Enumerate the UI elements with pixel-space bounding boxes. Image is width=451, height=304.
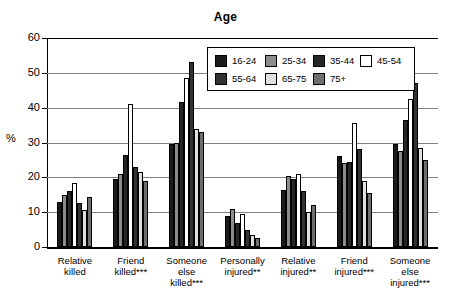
legend-item-16-24: 16-24 [215, 54, 256, 67]
legend-swatch-icon [215, 55, 227, 67]
bar [423, 160, 428, 247]
legend: 16-2425-3435-4445-5455-6465-7575+ [207, 47, 415, 91]
age-bar-chart: Age % 0102030405060 Relative killedFrien… [0, 0, 451, 304]
bar-group [113, 38, 148, 247]
x-axis-label: Someone else injured*** [376, 255, 444, 288]
legend-item-55-64: 55-64 [215, 72, 256, 85]
legend-swatch-icon [265, 73, 277, 85]
bar [311, 205, 316, 247]
y-tick-label: 30 [18, 136, 40, 148]
x-axis-line [47, 247, 438, 249]
legend-label: 16-24 [232, 55, 256, 66]
y-tick-label: 0 [18, 240, 40, 252]
y-axis-title: % [6, 132, 16, 144]
y-tick-label: 60 [18, 31, 40, 43]
legend-swatch-icon [265, 55, 277, 67]
bar [143, 181, 148, 247]
bar [255, 238, 260, 247]
bar [87, 197, 92, 248]
legend-item-75plus: 75+ [313, 72, 346, 85]
legend-item-45-54: 45-54 [360, 54, 401, 67]
legend-swatch-icon [215, 73, 227, 85]
y-tick-label: 20 [18, 170, 40, 182]
y-tick-mark [42, 247, 47, 248]
bar-group [169, 38, 204, 247]
legend-item-25-34: 25-34 [265, 54, 306, 67]
y-tick-label: 10 [18, 205, 40, 217]
legend-label: 25-34 [282, 55, 306, 66]
bar-group [57, 38, 92, 247]
legend-label: 55-64 [232, 73, 256, 84]
bar [199, 132, 204, 247]
legend-swatch-icon [360, 55, 372, 67]
y-tick-label: 50 [18, 66, 40, 78]
legend-label: 45-54 [377, 55, 401, 66]
legend-label: 65-75 [282, 73, 306, 84]
bar [367, 193, 372, 247]
legend-item-65-75: 65-75 [265, 72, 306, 85]
y-tick-label: 40 [18, 101, 40, 113]
legend-label: 75+ [330, 73, 346, 84]
legend-swatch-icon [313, 55, 325, 67]
legend-label: 35-44 [330, 55, 354, 66]
chart-title: Age [0, 10, 451, 24]
legend-item-35-44: 35-44 [313, 54, 354, 67]
legend-swatch-icon [313, 73, 325, 85]
